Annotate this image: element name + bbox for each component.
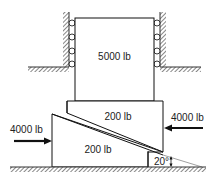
left-wall: [28, 12, 69, 72]
left-rollers: [69, 20, 75, 67]
right-wall: [160, 12, 201, 72]
left-force-label: 4000 lb: [10, 124, 43, 135]
upper-block-label: 5000 lb: [98, 51, 131, 62]
right-force-arrow: [164, 125, 203, 132]
ground: [10, 167, 206, 172]
wedge-label: 200 lb: [84, 144, 112, 155]
right-rollers: [154, 20, 160, 67]
middle-block-label: 200 lb: [104, 111, 132, 122]
left-force-arrow: [14, 138, 52, 145]
angle-label: 20°: [154, 156, 169, 167]
right-force-label: 4000 lb: [171, 112, 204, 123]
wedge-diagram: 5000 lb 200 lb 200 lb 20° 4000 lb 4000 l…: [0, 0, 211, 186]
